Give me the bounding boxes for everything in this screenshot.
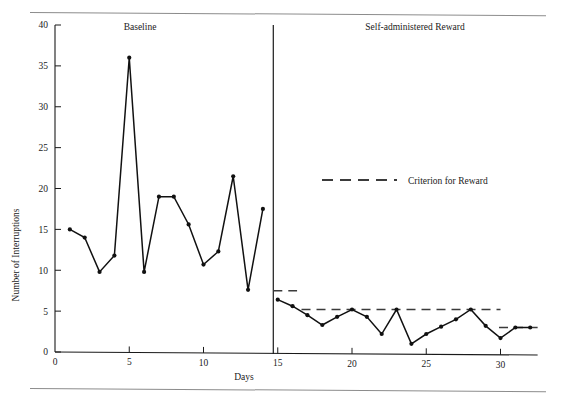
data-point bbox=[246, 288, 250, 292]
data-point bbox=[187, 222, 191, 226]
x-tick-label: 10 bbox=[199, 358, 209, 368]
data-point bbox=[469, 307, 473, 311]
data-point bbox=[365, 315, 369, 319]
x-axis-ticks: 051015202530 bbox=[53, 346, 506, 369]
y-tick-label: 25 bbox=[39, 143, 49, 153]
data-point bbox=[350, 307, 354, 311]
data-point bbox=[439, 325, 443, 329]
phase-label-baseline: Baseline bbox=[124, 22, 157, 32]
x-tick-label: 30 bbox=[496, 360, 506, 370]
data-point bbox=[380, 332, 384, 336]
series-line-1 bbox=[278, 300, 530, 344]
data-point bbox=[172, 195, 176, 199]
data-point bbox=[291, 304, 295, 308]
criterion-lines bbox=[273, 291, 537, 328]
x-tick-label: 0 bbox=[53, 357, 58, 367]
series-line-0 bbox=[70, 58, 263, 290]
y-axis-ticks: 0510152025303540 bbox=[39, 20, 62, 357]
data-point bbox=[157, 195, 161, 199]
x-tick-label: 5 bbox=[127, 357, 132, 367]
x-axis-line bbox=[55, 352, 538, 355]
data-point bbox=[276, 298, 280, 302]
figure-container: 0510152025303540 051015202530 Number of … bbox=[0, 0, 563, 403]
data-point bbox=[513, 325, 517, 329]
phase-label-treatment: Self-administered Reward bbox=[365, 22, 465, 32]
data-point bbox=[484, 324, 488, 328]
data-point bbox=[68, 227, 72, 231]
line-chart: 0510152025303540 051015202530 Number of … bbox=[0, 0, 563, 403]
data-point bbox=[454, 317, 458, 321]
data-point bbox=[305, 313, 309, 317]
data-point bbox=[142, 270, 146, 274]
legend-label-criterion: Criterion for Reward bbox=[408, 176, 488, 186]
y-tick-label: 15 bbox=[39, 225, 49, 235]
x-tick-label: 15 bbox=[273, 358, 283, 368]
data-point bbox=[261, 207, 265, 211]
y-axis-title: Number of Interruptions bbox=[11, 208, 21, 301]
data-point bbox=[498, 336, 502, 340]
y-tick-label: 40 bbox=[39, 20, 49, 30]
data-point bbox=[201, 262, 205, 266]
x-tick-label: 20 bbox=[347, 359, 357, 369]
data-point bbox=[528, 325, 532, 329]
y-tick-label: 5 bbox=[43, 307, 48, 317]
y-tick-label: 20 bbox=[39, 184, 49, 194]
data-point bbox=[320, 323, 324, 327]
data-point bbox=[112, 253, 116, 257]
y-tick-label: 10 bbox=[39, 266, 49, 276]
data-point bbox=[335, 315, 339, 319]
data-point bbox=[231, 174, 235, 178]
data-point bbox=[424, 332, 428, 336]
y-tick-label: 0 bbox=[43, 347, 48, 357]
data-point bbox=[394, 307, 398, 311]
data-point bbox=[216, 249, 220, 253]
data-point bbox=[127, 56, 131, 60]
data-point bbox=[83, 235, 87, 239]
y-tick-label: 30 bbox=[39, 102, 49, 112]
x-tick-label: 25 bbox=[422, 359, 432, 369]
y-tick-label: 35 bbox=[39, 61, 49, 71]
data-series-group bbox=[68, 56, 533, 346]
data-point bbox=[409, 342, 413, 346]
x-axis-title: Days bbox=[234, 372, 254, 382]
data-point bbox=[97, 270, 101, 274]
